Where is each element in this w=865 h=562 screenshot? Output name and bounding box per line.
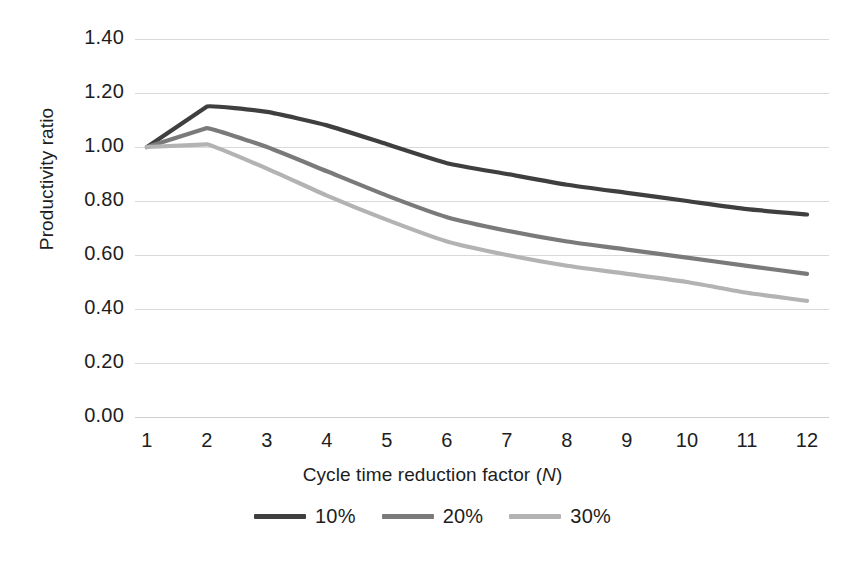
productivity-ratio-line-chart: Productivity ratio 0.000.200.400.600.801… xyxy=(0,0,865,562)
x-tick-label-2: 2 xyxy=(187,429,227,452)
x-tick-label-12: 12 xyxy=(787,429,827,452)
x-tick-label-5: 5 xyxy=(367,429,407,452)
legend-swatch-icon xyxy=(254,514,306,519)
legend-label: 30% xyxy=(570,505,611,528)
x-tick-label-9: 9 xyxy=(607,429,647,452)
x-tick-label-3: 3 xyxy=(247,429,287,452)
x-tick-label-8: 8 xyxy=(547,429,587,452)
legend-swatch-icon xyxy=(382,514,434,519)
series-line-20pct xyxy=(147,128,807,274)
legend-label: 20% xyxy=(443,505,484,528)
x-tick-label-10: 10 xyxy=(667,429,707,452)
x-tick-label-1: 1 xyxy=(127,429,167,452)
legend-swatch-icon xyxy=(509,514,561,519)
chart-legend: 10%20%30% xyxy=(0,505,865,528)
x-tick-label-4: 4 xyxy=(307,429,347,452)
x-axis-title-prefix: Cycle time reduction factor ( xyxy=(303,464,542,485)
x-axis-title-suffix: ) xyxy=(556,464,562,485)
x-tick-label-7: 7 xyxy=(487,429,527,452)
legend-label: 10% xyxy=(315,505,356,528)
x-tick-label-6: 6 xyxy=(427,429,467,452)
legend-item-20pct[interactable]: 20% xyxy=(382,505,484,528)
legend-item-30pct[interactable]: 30% xyxy=(509,505,611,528)
x-tick-label-11: 11 xyxy=(727,429,767,452)
legend-item-10pct[interactable]: 10% xyxy=(254,505,356,528)
x-axis-title-variable: N xyxy=(542,464,556,485)
x-axis-title: Cycle time reduction factor (N) xyxy=(0,464,865,486)
